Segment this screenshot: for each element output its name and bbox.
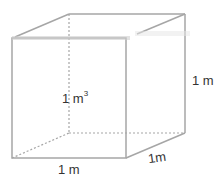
width-label: 1 m bbox=[58, 163, 80, 176]
top-left-diagonal-edge bbox=[15, 14, 69, 37]
hidden-bottom-left-diagonal-edge bbox=[12, 133, 69, 158]
height-label: 1 m bbox=[192, 74, 214, 87]
volume-label: 1 m3 bbox=[62, 92, 88, 105]
volume-value: 1 m bbox=[62, 91, 84, 106]
cube-diagram: 1 m3 1 m 1m 1 m bbox=[0, 0, 224, 184]
volume-exponent: 3 bbox=[84, 89, 88, 98]
top-edge-highlight bbox=[12, 36, 130, 40]
depth-label: 1m bbox=[147, 150, 167, 165]
top-right-highlight bbox=[135, 31, 190, 36]
cube-drawing bbox=[0, 0, 224, 184]
